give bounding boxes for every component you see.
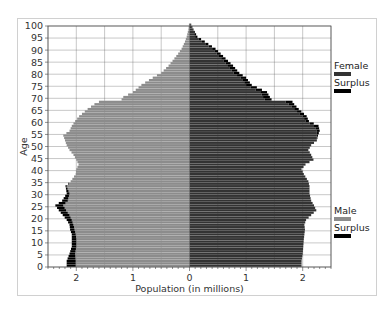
- female-bar: [190, 253, 303, 255]
- male-bar: [75, 253, 189, 255]
- male-surplus-bar: [65, 195, 69, 197]
- y-tick-label: 100: [25, 20, 43, 31]
- female-bar: [190, 257, 302, 259]
- legend-label: Female: [334, 60, 369, 71]
- female-bar: [190, 45, 209, 47]
- y-tick-label: 20: [31, 213, 43, 224]
- female-bar: [190, 209, 317, 211]
- male-bar: [73, 221, 190, 223]
- female-bar: [190, 219, 307, 221]
- female-bar: [190, 202, 313, 204]
- female-surplus-bar: [226, 62, 231, 64]
- male-bar: [76, 168, 189, 170]
- male-bar: [77, 166, 189, 168]
- male-surplus-bar: [57, 207, 65, 209]
- legend-swatch: [334, 234, 351, 238]
- male-surplus-bar: [65, 216, 71, 218]
- male-surplus-bar: [68, 257, 76, 259]
- male-bar: [85, 110, 190, 112]
- male-bar: [71, 151, 189, 153]
- female-bar: [190, 122, 310, 124]
- male-bar: [76, 240, 189, 242]
- female-surplus-bar: [317, 132, 319, 134]
- male-bar: [88, 108, 190, 110]
- female-bar: [190, 96, 264, 98]
- male-bar: [76, 257, 190, 259]
- male-surplus-bar: [70, 228, 75, 230]
- male-surplus-bar: [64, 197, 69, 199]
- male-bar: [188, 31, 190, 33]
- male-surplus-bar: [71, 231, 75, 233]
- y-tick-label: 40: [31, 165, 43, 176]
- female-surplus-bar: [219, 55, 223, 57]
- male-bar: [70, 130, 190, 132]
- male-bar: [76, 262, 190, 264]
- legend-swatch: [334, 217, 351, 221]
- male-bar: [64, 137, 189, 139]
- legend: FemaleSurplusMaleSurplus: [334, 60, 370, 238]
- male-bar: [99, 101, 190, 103]
- female-bar: [190, 62, 226, 64]
- female-surplus-bar: [199, 38, 202, 40]
- male-surplus-bar: [67, 265, 76, 267]
- male-bar: [68, 197, 189, 199]
- female-bar: [190, 33, 195, 35]
- female-bar: [190, 106, 292, 108]
- female-bar: [190, 175, 306, 177]
- male-surplus-bar: [70, 226, 74, 228]
- female-bar: [190, 118, 305, 120]
- y-tick-label: 50: [31, 141, 43, 152]
- male-bar: [76, 245, 189, 247]
- female-surplus-bar: [223, 60, 228, 62]
- male-bar: [74, 226, 189, 228]
- female-bar: [190, 260, 302, 262]
- legend-label: Surplus: [334, 77, 370, 88]
- female-bar: [190, 132, 317, 134]
- female-bar: [190, 226, 305, 228]
- male-bar: [169, 65, 190, 67]
- x-axis-label: Population (in millions): [135, 283, 244, 294]
- male-bar: [68, 147, 189, 149]
- male-bar: [76, 260, 190, 262]
- male-bar: [70, 192, 190, 194]
- female-surplus-bar: [304, 118, 308, 120]
- male-bar: [65, 139, 190, 141]
- male-bar: [66, 202, 190, 204]
- y-tick-label: 35: [31, 177, 43, 188]
- male-surplus-bar: [55, 204, 63, 206]
- female-surplus-bar: [265, 98, 272, 100]
- y-tick-label: 90: [31, 45, 43, 56]
- population-pyramid-chart: 21012 0510152025303540455055606570758085…: [18, 19, 378, 297]
- female-bar: [190, 125, 315, 127]
- female-bar: [190, 53, 217, 55]
- female-bar: [190, 192, 310, 194]
- female-bar: [190, 130, 317, 132]
- female-surplus-bar: [310, 122, 314, 124]
- y-tick-label: 80: [31, 69, 43, 80]
- male-surplus-bar: [69, 255, 76, 257]
- female-bar: [190, 240, 304, 242]
- male-bar: [149, 79, 190, 81]
- female-surplus-bar: [314, 125, 319, 127]
- male-bar: [123, 96, 189, 98]
- male-surplus-bar: [62, 200, 68, 202]
- female-bar: [190, 120, 306, 122]
- female-surplus-bar: [291, 106, 296, 108]
- male-surplus-bar: [67, 192, 70, 194]
- female-bar: [190, 89, 256, 91]
- female-surplus-bar: [317, 134, 318, 136]
- female-bar: [190, 103, 289, 105]
- y-tick-label: 75: [31, 81, 43, 92]
- male-surplus-bar: [72, 245, 77, 247]
- female-bar: [190, 195, 311, 197]
- chart-figure: 21012 0510152025303540455055606570758085…: [17, 18, 377, 296]
- female-bar: [190, 60, 224, 62]
- female-surplus-bar: [234, 72, 240, 74]
- male-bar: [67, 185, 190, 187]
- female-surplus-bar: [294, 108, 299, 110]
- legend-label: Male: [334, 205, 357, 216]
- female-surplus-bar: [194, 33, 196, 35]
- female-surplus-bar: [315, 127, 319, 129]
- male-bar: [176, 55, 189, 57]
- bars-layer: [55, 24, 319, 267]
